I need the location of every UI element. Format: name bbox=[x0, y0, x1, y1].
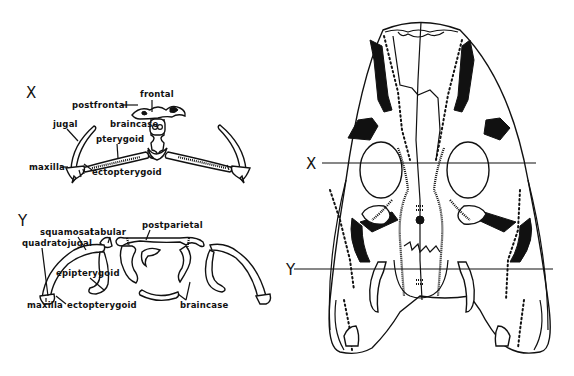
frontal-suture-mark bbox=[170, 107, 178, 112]
section-x-letter: X bbox=[26, 84, 36, 102]
postfrontal-suture-mark bbox=[142, 111, 147, 115]
label-frontal: frontal bbox=[140, 89, 174, 99]
leader-jugal bbox=[67, 129, 78, 141]
jugal-left bbox=[71, 126, 96, 170]
pterygoid-right bbox=[165, 152, 234, 172]
leader-braincase-y bbox=[178, 282, 190, 300]
braincase-center-piece bbox=[142, 248, 161, 266]
label-pterygoid: pterygoid bbox=[96, 134, 144, 144]
label-epipterygoid: epipterygoid bbox=[56, 268, 120, 278]
orbit-left bbox=[360, 142, 402, 198]
label-postfrontal: postfrontal bbox=[72, 100, 128, 110]
epipterygoid-right bbox=[206, 250, 226, 292]
skull-outline bbox=[329, 23, 550, 354]
section-line-y-letter: Y bbox=[285, 261, 296, 279]
cross-section-y: Y squamosal tabular postparietal quadrat… bbox=[17, 212, 271, 310]
braincase-left-piece bbox=[120, 246, 137, 283]
label-maxilla-y: maxilla bbox=[27, 300, 63, 310]
braincase-right-piece bbox=[178, 246, 190, 282]
label-braincase-x: braincase bbox=[110, 119, 158, 129]
label-tabular: tabular bbox=[90, 227, 127, 237]
cross-section-x: X frontal postfrontal braincase bbox=[26, 84, 250, 183]
label-jugal: jugal bbox=[52, 119, 78, 129]
label-ectopterygoid-y: ectopterygoid bbox=[67, 300, 137, 310]
label-squamosal: squamosal bbox=[40, 227, 93, 237]
section-line-x-letter: X bbox=[306, 155, 316, 173]
skull-diagram: X frontal postfrontal braincase bbox=[0, 0, 574, 376]
postparietal-roof bbox=[116, 237, 204, 246]
jugal-right bbox=[218, 125, 246, 170]
orbit-right bbox=[447, 142, 489, 198]
label-quadratojugal: quadratojugal bbox=[22, 238, 92, 248]
label-maxilla-x: maxilla bbox=[29, 162, 65, 172]
section-y-letter: Y bbox=[17, 212, 28, 230]
leader-pterygoid bbox=[117, 144, 118, 158]
label-ectopterygoid-x: ectopterygoid bbox=[92, 167, 162, 177]
skull-dorsal-view: X Y bbox=[285, 22, 553, 353]
label-postparietal: postparietal bbox=[142, 220, 203, 230]
maxilla-right-y bbox=[256, 294, 271, 304]
pineal-foramen bbox=[416, 216, 424, 224]
braincase-lower-piece bbox=[139, 290, 178, 300]
label-braincase-y: braincase bbox=[180, 300, 228, 310]
